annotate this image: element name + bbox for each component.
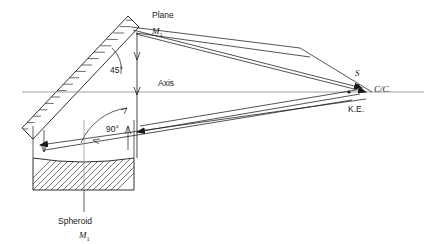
label-spheroid: Spheroid — [58, 216, 92, 226]
m1-subscript-spheroid: 1 — [87, 235, 90, 242]
lower-ray-bundle — [40, 90, 366, 150]
label-angle-45: 45° — [110, 65, 123, 75]
focus-dot-cc — [347, 90, 350, 93]
label-axis: Axis — [158, 78, 174, 88]
label-source-s: S — [355, 68, 360, 78]
focus-dot-s — [356, 84, 360, 88]
m1-letter: M — [152, 26, 160, 36]
label-plane-mirror-m1: M1 — [152, 26, 163, 38]
label-plane: Plane — [152, 10, 174, 20]
optical-diagram-svg — [0, 0, 430, 244]
plane-mirror — [17, 16, 139, 139]
vertical-folded-ray — [134, 33, 140, 158]
label-spheroid-mirror-m1: M1 — [79, 230, 90, 242]
label-ke: K.E. — [348, 104, 364, 114]
diagram-canvas: Plane M1 Spheroid M1 Axis 45° 90° S C/C.… — [0, 0, 430, 244]
m1-subscript: 1 — [160, 31, 163, 38]
label-angle-90: 90° — [106, 124, 119, 134]
label-cc: C/C. — [374, 84, 391, 94]
m1-letter-spheroid: M — [79, 230, 87, 240]
